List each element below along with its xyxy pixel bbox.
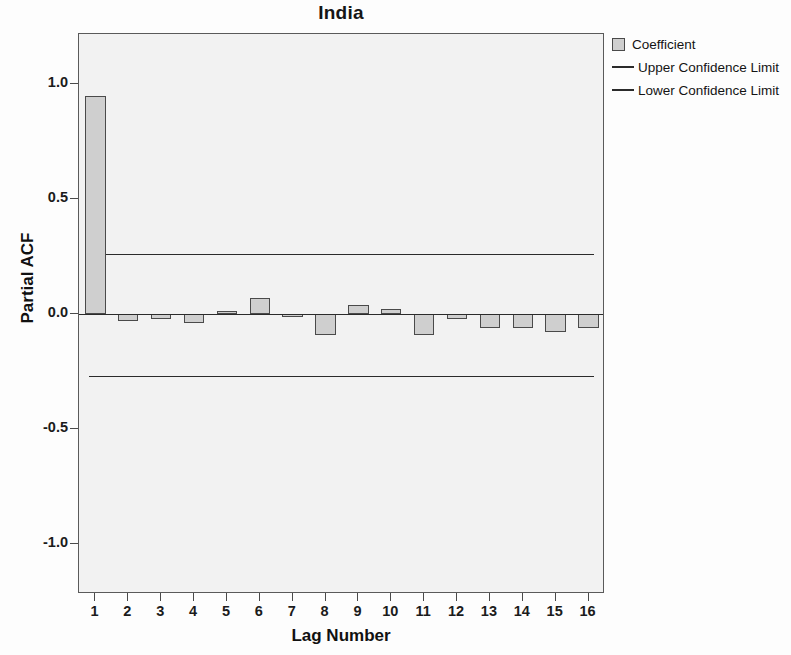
bar-lag-14	[513, 314, 533, 328]
x-tick-mark-13	[489, 593, 490, 601]
line-swatch-icon	[612, 89, 634, 91]
bar-lag-2	[118, 314, 138, 321]
x-tick-label-9: 9	[342, 603, 372, 619]
bar-lag-16	[578, 314, 598, 328]
x-tick-mark-6	[259, 593, 260, 601]
y-tick-label--1.0: -1.0	[18, 534, 68, 550]
lower-confidence-limit-line	[89, 376, 595, 377]
legend-item-lower-confidence-limit: Lower Confidence Limit	[612, 79, 790, 101]
pacf-chart: India Partial ACF 1.00.50.0-0.5-1.0 1234…	[0, 0, 791, 655]
plot-inner	[79, 34, 603, 592]
chart-legend: Coefficient Upper Confidence Limit Lower…	[612, 33, 790, 102]
x-tick-label-10: 10	[375, 603, 405, 619]
y-tick-mark--1.0	[70, 543, 78, 544]
x-tick-label-14: 14	[507, 603, 537, 619]
y-tick-label-0.5: 0.5	[18, 189, 68, 205]
bar-lag-13	[480, 314, 500, 328]
x-tick-label-11: 11	[408, 603, 438, 619]
x-tick-mark-4	[193, 593, 194, 601]
x-tick-label-1: 1	[79, 603, 109, 619]
bar-lag-8	[315, 314, 335, 335]
y-tick-mark-0.0	[70, 313, 78, 314]
x-tick-mark-7	[292, 593, 293, 601]
bar-lag-1	[85, 96, 105, 314]
x-tick-label-15: 15	[540, 603, 570, 619]
bar-lag-4	[184, 314, 204, 323]
x-tick-mark-15	[555, 593, 556, 601]
legend-label-upper-confidence-limit: Upper Confidence Limit	[638, 60, 779, 75]
bar-lag-6	[250, 298, 270, 314]
y-tick-mark-1.0	[70, 83, 78, 84]
x-tick-mark-12	[456, 593, 457, 601]
line-swatch-icon	[612, 66, 634, 68]
y-tick-label--0.5: -0.5	[18, 419, 68, 435]
x-tick-mark-1	[94, 593, 95, 601]
bar-lag-11	[414, 314, 434, 335]
x-tick-label-8: 8	[310, 603, 340, 619]
plot-area	[78, 33, 604, 593]
x-tick-label-5: 5	[211, 603, 241, 619]
x-tick-mark-10	[390, 593, 391, 601]
chart-title: India	[78, 2, 604, 24]
x-tick-mark-8	[325, 593, 326, 601]
upper-confidence-limit-line	[89, 254, 595, 255]
y-axis-title: Partial ACF	[18, 198, 38, 358]
x-axis-title: Lag Number	[78, 626, 604, 646]
x-tick-label-12: 12	[441, 603, 471, 619]
x-tick-label-2: 2	[112, 603, 142, 619]
x-tick-mark-11	[423, 593, 424, 601]
x-tick-label-7: 7	[277, 603, 307, 619]
legend-label-coefficient: Coefficient	[632, 37, 696, 52]
x-tick-mark-5	[226, 593, 227, 601]
zero-baseline	[79, 314, 603, 315]
square-swatch-icon	[612, 38, 625, 51]
x-tick-mark-14	[522, 593, 523, 601]
legend-label-lower-confidence-limit: Lower Confidence Limit	[638, 83, 779, 98]
legend-item-upper-confidence-limit: Upper Confidence Limit	[612, 56, 790, 78]
x-tick-mark-2	[127, 593, 128, 601]
x-tick-label-13: 13	[474, 603, 504, 619]
x-tick-label-3: 3	[145, 603, 175, 619]
x-tick-mark-9	[357, 593, 358, 601]
x-tick-mark-16	[588, 593, 589, 601]
x-tick-label-6: 6	[244, 603, 274, 619]
y-tick-mark--0.5	[70, 428, 78, 429]
y-tick-mark-0.5	[70, 198, 78, 199]
x-tick-label-4: 4	[178, 603, 208, 619]
bar-lag-9	[348, 305, 368, 314]
bar-lag-15	[545, 314, 565, 332]
x-tick-label-16: 16	[573, 603, 603, 619]
x-tick-mark-3	[160, 593, 161, 601]
y-tick-label-1.0: 1.0	[18, 74, 68, 90]
y-tick-label-0.0: 0.0	[18, 304, 68, 320]
legend-item-coefficient: Coefficient	[612, 33, 790, 55]
